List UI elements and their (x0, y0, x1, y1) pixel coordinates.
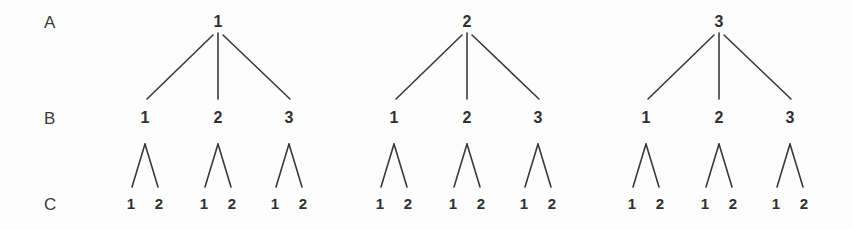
node-level-c-tree1-3: 1 (200, 196, 208, 211)
row-label-a: A (44, 14, 56, 31)
node-level-c-tree3-2: 2 (656, 196, 664, 211)
node-level-c-tree3-4: 2 (729, 196, 737, 211)
tree-edge-b-c (777, 144, 790, 187)
tree-edge-b-c (719, 144, 732, 187)
node-level-b-tree2-1: 1 (390, 110, 399, 126)
tree-edge-a-b (223, 35, 290, 99)
node-level-b-tree2-2: 2 (463, 110, 472, 126)
tree-edge-b-c (467, 144, 480, 187)
tree-edge-a-b (472, 35, 539, 99)
tree-edge-b-c (633, 144, 646, 187)
node-level-c-tree3-1: 1 (628, 196, 636, 211)
tree-edge-b-c (706, 144, 719, 187)
node-level-c-tree3-6: 2 (800, 196, 808, 211)
tree-edge-a-b (648, 35, 714, 99)
tree-edge-b-c (454, 144, 467, 187)
tree-edge-b-c (205, 144, 218, 187)
node-level-c-tree1-1: 1 (127, 196, 135, 211)
tree-edge-b-c (538, 144, 551, 187)
node-level-c-tree2-3: 1 (449, 196, 457, 211)
node-level-c-tree1-4: 2 (228, 196, 236, 211)
node-level-c-tree3-3: 1 (701, 196, 709, 211)
tree-edge-b-c (525, 144, 538, 187)
nested-design-diagram: ABC 112312121221231212123123121212 (0, 0, 853, 229)
tree-edge-b-c (289, 144, 302, 187)
tree-edge-b-c (646, 144, 659, 187)
node-level-a-tree1: 1 (214, 14, 223, 30)
node-level-b-tree1-1: 1 (141, 110, 150, 126)
tree-edge-b-c (145, 144, 158, 187)
tree-edge-b-c (381, 144, 394, 187)
node-level-c-tree2-6: 2 (548, 196, 556, 211)
node-level-c-tree2-5: 1 (520, 196, 528, 211)
tree-edge-b-c (790, 144, 803, 187)
node-level-a-tree2: 2 (463, 14, 472, 30)
node-level-b-tree1-2: 2 (214, 110, 223, 126)
node-level-c-tree3-5: 1 (772, 196, 780, 211)
node-level-b-tree3-3: 3 (786, 110, 795, 126)
node-level-c-tree2-1: 1 (376, 196, 384, 211)
tree-edge-a-b (724, 35, 791, 99)
tree-edge-a-b (396, 35, 462, 99)
edges-level-a-to-b (147, 33, 791, 99)
node-level-c-tree2-2: 2 (404, 196, 412, 211)
node-level-b-tree1-3: 3 (285, 110, 294, 126)
tree-edge-b-c (132, 144, 145, 187)
node-level-c-tree2-4: 2 (477, 196, 485, 211)
node-level-b-tree3-1: 1 (642, 110, 651, 126)
tree-edge-b-c (394, 144, 407, 187)
row-label-c: C (44, 196, 57, 213)
tree-edge-b-c (276, 144, 289, 187)
node-level-b-tree2-3: 3 (534, 110, 543, 126)
node-level-c-tree1-6: 2 (299, 196, 307, 211)
node-level-a-tree3: 3 (715, 14, 724, 30)
edges-level-b-to-c (132, 144, 803, 187)
row-label-b: B (44, 110, 56, 127)
node-level-c-tree1-5: 1 (271, 196, 279, 211)
tree-edge-b-c (218, 144, 231, 187)
tree-edge-a-b (147, 35, 213, 99)
node-level-b-tree3-2: 2 (715, 110, 724, 126)
node-level-c-tree1-2: 2 (155, 196, 163, 211)
